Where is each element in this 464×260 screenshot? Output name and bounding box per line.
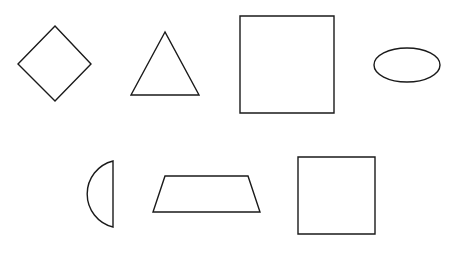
shapes-canvas	[0, 0, 464, 260]
background	[0, 0, 464, 260]
